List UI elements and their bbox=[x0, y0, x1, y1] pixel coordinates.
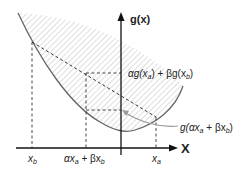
tick-label-mixture: αxa + βxb bbox=[64, 153, 105, 165]
x-axis-label: X bbox=[181, 141, 190, 156]
y-axis-label: g(x) bbox=[130, 13, 151, 25]
chord-value-label: αg(xa) + βg(xb) bbox=[128, 68, 193, 80]
function-value-label: g(αxa + βxb) bbox=[180, 122, 233, 134]
tick-label-xa: xa bbox=[151, 153, 161, 165]
x-axis-arrow-icon bbox=[169, 145, 178, 152]
x-axis bbox=[16, 145, 178, 152]
convexity-diagram: g(x) X αg(xa) + βg(xb) g(αxa + βxb) xb α… bbox=[0, 0, 246, 170]
y-axis-arrow-icon bbox=[118, 12, 125, 21]
tick-label-xb: xb bbox=[27, 153, 37, 165]
